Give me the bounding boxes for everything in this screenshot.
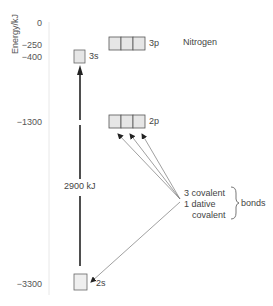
2p-label: 2p <box>149 116 159 126</box>
2s-orbital-box <box>74 274 87 290</box>
brace-icon <box>231 187 239 219</box>
tick-minus-400: −400 <box>2 52 42 62</box>
promotion-arrow <box>77 65 83 266</box>
3p-label: 3p <box>149 38 159 48</box>
bond-arrows <box>91 134 180 282</box>
diagram-title: Nitrogen <box>183 37 217 47</box>
3p-orbital-boxes <box>109 37 145 50</box>
3s-orbital-box <box>74 50 85 63</box>
tick-minus-1300: −1300 <box>2 117 42 127</box>
annotation-line-2: 1 dative <box>184 199 216 210</box>
brace-label: bonds <box>241 198 266 209</box>
promotion-energy-label: 2900 kJ <box>63 181 97 191</box>
tick-minus-3300: −3300 <box>2 279 42 289</box>
2s-label: 2s <box>96 278 106 288</box>
tick-0: 0 <box>2 18 42 28</box>
3s-label: 3s <box>89 51 99 61</box>
annotation-line-3: covalent <box>192 210 226 221</box>
2p-orbital-boxes <box>109 115 145 128</box>
tick-minus-250: −250 <box>2 40 42 50</box>
annotation-line-1: 3 covalent <box>184 188 225 199</box>
